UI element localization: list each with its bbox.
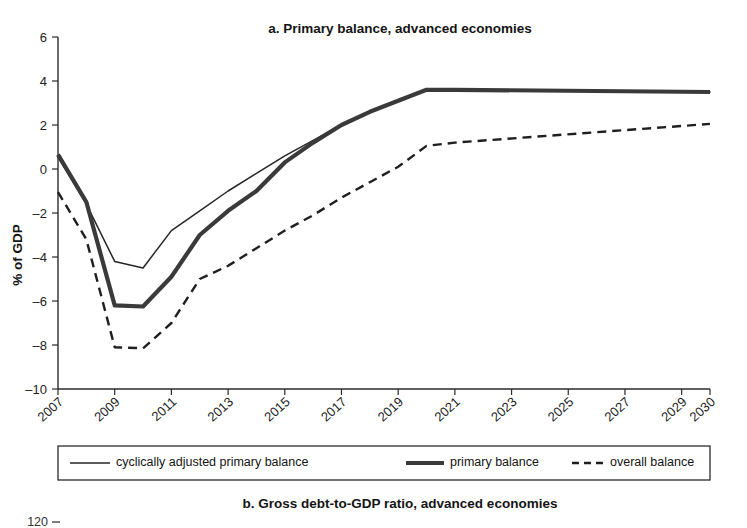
x-tick-label: 2013 xyxy=(205,394,237,424)
y-axis-title: % of GDP xyxy=(10,224,25,286)
y-tick-label: 0 xyxy=(40,162,47,177)
x-tick-label: 2015 xyxy=(261,394,293,424)
x-tick-label: 2029 xyxy=(658,394,690,424)
series-line-thin-solid xyxy=(58,90,710,268)
panel-b-first-ytick: 120 xyxy=(27,515,48,528)
x-tick-label: 2027 xyxy=(601,394,633,424)
y-tick-label: 6 xyxy=(40,30,47,45)
series-line-dashed xyxy=(58,124,710,348)
y-tick-label: –2 xyxy=(33,206,47,221)
x-tick-label: 2023 xyxy=(488,394,520,424)
y-tick-label: 4 xyxy=(40,74,47,89)
x-tick-label: 2007 xyxy=(34,394,66,424)
x-tick-label: 2030 xyxy=(686,394,718,424)
x-tick-label: 2017 xyxy=(318,394,350,424)
x-tick-label: 2009 xyxy=(91,394,123,424)
x-axis-ticks: 2007200920112013201520172019202120232025… xyxy=(34,389,718,425)
panel-a-title: a. Primary balance, advanced economies xyxy=(268,21,531,36)
series-line-thick-solid xyxy=(58,90,710,307)
figure-panel-a: a. Primary balance, advanced economies %… xyxy=(0,0,747,528)
legend-label: cyclically adjusted primary balance xyxy=(116,455,308,469)
x-tick-label: 2019 xyxy=(375,394,407,424)
y-tick-label: –4 xyxy=(33,250,47,265)
x-tick-label: 2021 xyxy=(431,394,463,424)
panel-b-title: b. Gross debt-to-GDP ratio, advanced eco… xyxy=(243,496,558,511)
chart-legend: cyclically adjusted primary balanceprima… xyxy=(58,446,710,480)
y-tick-label: 2 xyxy=(40,118,47,133)
y-tick-label: –8 xyxy=(33,338,47,353)
x-tick-label: 2011 xyxy=(149,394,180,424)
y-tick-label: –6 xyxy=(33,294,47,309)
x-tick-label: 2025 xyxy=(545,394,577,424)
legend-label: overall balance xyxy=(610,455,694,469)
y-axis-ticks: 6420–2–4–6–8–10 xyxy=(25,30,58,397)
y-tick-label: –10 xyxy=(25,382,47,397)
plot-series-group xyxy=(58,90,710,349)
legend-label: primary balance xyxy=(450,455,539,469)
